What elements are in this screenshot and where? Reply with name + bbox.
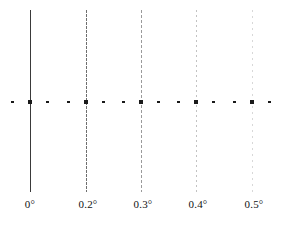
satellite-marker-right <box>268 101 271 103</box>
satellite-marker-left <box>122 101 125 103</box>
x-tick-label-4: 0.5° <box>245 198 264 210</box>
satellite-marker-left <box>11 101 14 103</box>
satellite-marker-left <box>177 101 180 103</box>
data-point-marker <box>84 100 88 104</box>
data-point-marker <box>250 100 254 104</box>
plot-area: 0° 0.2° 0.3° 0.4° 0.5° <box>0 0 281 226</box>
satellite-marker-left <box>67 101 70 103</box>
x-tick-label-2: 0.3° <box>134 198 153 210</box>
data-point-marker <box>194 100 198 104</box>
x-tick-label-3: 0.4° <box>189 198 208 210</box>
x-tick-label-1: 0.2° <box>79 198 98 210</box>
satellite-marker-right <box>212 101 215 103</box>
x-tick-label-0: 0° <box>25 198 35 210</box>
satellite-marker-left <box>233 101 236 103</box>
satellite-marker-right <box>102 101 105 103</box>
vertical-lines-layer <box>0 0 281 226</box>
satellite-marker-right <box>46 101 49 103</box>
data-point-marker <box>28 100 32 104</box>
figure-canvas: 0° 0.2° 0.3° 0.4° 0.5° <box>0 0 281 226</box>
data-point-marker <box>139 100 143 104</box>
satellite-marker-right <box>157 101 160 103</box>
